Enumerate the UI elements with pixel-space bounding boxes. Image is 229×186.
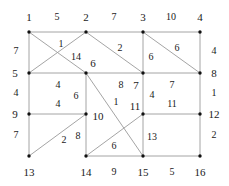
vertex-label: 10 — [93, 111, 104, 122]
vertex-label: 5 — [12, 68, 18, 79]
vertex-label: 4 — [197, 12, 203, 23]
graph-vertex — [27, 112, 30, 115]
vertex-label: 12 — [209, 109, 220, 120]
edge-weight-label: 4 — [14, 88, 19, 98]
edge-weight-label: 7 — [14, 130, 19, 140]
vertex-label: 11 — [130, 101, 141, 112]
edge-weight-label: 2 — [212, 130, 217, 140]
vertex-label: 1 — [26, 12, 32, 23]
vertex-label: 6 — [90, 58, 96, 69]
edge-weight-label: 1 — [114, 97, 119, 107]
edge-weight-label: 2 — [118, 43, 123, 53]
edge-weight-label: 4 — [56, 99, 61, 109]
vertex-label: 9 — [12, 109, 18, 120]
graph-vertex — [141, 30, 144, 33]
edge-weight-label: 7 — [14, 46, 19, 56]
edge-weight-label: 6 — [74, 91, 79, 101]
graph-vertex — [198, 154, 201, 157]
edge-weight-label: 9 — [112, 167, 117, 177]
edge-weight-label: 6 — [112, 141, 117, 151]
edge-weight-label: 1 — [59, 39, 64, 49]
edge-weight-label: 6 — [175, 43, 180, 53]
vertex-label: 2 — [83, 12, 89, 23]
graph-vertex — [198, 30, 201, 33]
vertex-label: 14 — [81, 167, 92, 178]
vertex-label: 13 — [24, 167, 35, 178]
weighted-graph-figure: 1234567891011121314151657107474121142664… — [0, 0, 229, 186]
graph-vertex — [84, 154, 87, 157]
edge-weight-label: 4 — [56, 80, 61, 90]
graph-canvas — [0, 0, 229, 186]
edge-weight-label: 11 — [167, 99, 177, 109]
graph-vertex — [84, 30, 87, 33]
edge-weight-label: 5 — [55, 12, 60, 22]
vertex-label: 8 — [211, 68, 217, 79]
edge-weight-label: 8 — [76, 131, 81, 141]
vertex-label: 16 — [195, 167, 206, 178]
edge-weight-label: 4 — [212, 46, 217, 56]
vertex-label: 3 — [140, 12, 146, 23]
edge-weight-label: 5 — [170, 167, 175, 177]
edge-weight-label: 6 — [149, 52, 154, 62]
edge-weight-label: 13 — [147, 132, 157, 142]
graph-vertex — [27, 154, 30, 157]
edge-weight-label: 2 — [62, 135, 67, 145]
graph-vertex — [141, 71, 144, 74]
edge-weight-label: 7 — [170, 80, 175, 90]
graph-vertex — [84, 112, 87, 115]
edge-weight-label: 7 — [112, 12, 117, 22]
vertex-label: 7 — [133, 80, 139, 91]
edge-weight-label: 10 — [166, 12, 176, 22]
graph-vertex — [198, 112, 201, 115]
graph-vertex — [27, 30, 30, 33]
graph-vertex — [141, 112, 144, 115]
edge-weight-label: 8 — [119, 80, 124, 90]
vertex-label: 15 — [138, 167, 149, 178]
edge-weight-label: 1 — [212, 88, 217, 98]
edge-weight-label: 14 — [71, 52, 81, 62]
graph-vertex — [198, 71, 201, 74]
graph-vertex — [27, 71, 30, 74]
graph-vertex — [141, 154, 144, 157]
edge-weight-label: 4 — [150, 90, 155, 100]
graph-vertex — [84, 71, 87, 74]
